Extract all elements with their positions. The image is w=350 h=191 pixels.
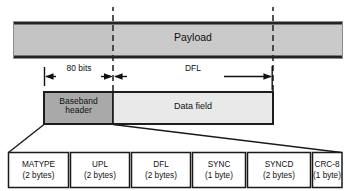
header-field-label-matype: MATYPE (2 bytes) [8, 159, 69, 181]
header-field-size-matype: (2 bytes) [8, 170, 69, 181]
header-field-name-syncd: SYNCD [247, 159, 311, 170]
payload-left-segment [13, 23, 113, 57]
payload-bottom-edge [13, 56, 343, 59]
header-length-label: 80 bits [52, 64, 106, 73]
header-field-size-crc8: (1 byte) [306, 170, 348, 181]
baseband-header-label-line2: header [65, 105, 91, 115]
header-field-name-sync: SYNC [192, 159, 246, 170]
expansion-line-right [113, 125, 342, 153]
header-field-label-upl: UPL (2 bytes) [70, 159, 130, 181]
payload-top-edge [13, 22, 343, 25]
baseband-frame-diagram: Payload 80 bits DFL Baseband header Data… [0, 0, 350, 191]
data-field-length-label: DFL [168, 64, 218, 73]
header-field-label-syncd: SYNCD (2 bytes) [247, 159, 311, 181]
header-field-label-sync: SYNC (1 byte) [192, 159, 246, 181]
header-field-size-sync: (1 byte) [192, 170, 246, 181]
data-field-label: Data field [135, 102, 251, 112]
header-field-name-upl: UPL [70, 159, 130, 170]
header-field-size-dfl: (2 bytes) [131, 170, 191, 181]
payload-label: Payload [113, 32, 273, 43]
header-field-name-matype: MATYPE [8, 159, 69, 170]
header-field-name-dfl: DFL [131, 159, 191, 170]
expansion-line-left [9, 125, 45, 153]
header-field-label-dfl: DFL (2 bytes) [131, 159, 191, 181]
header-field-label-crc8: CRC-8 (1 byte) [306, 159, 348, 181]
header-field-size-upl: (2 bytes) [70, 170, 130, 181]
expansion-callout [9, 125, 342, 153]
header-field-name-crc8: CRC-8 [306, 159, 348, 170]
header-field-size-syncd: (2 bytes) [247, 170, 311, 181]
baseband-header-label: Baseband header [45, 97, 112, 115]
